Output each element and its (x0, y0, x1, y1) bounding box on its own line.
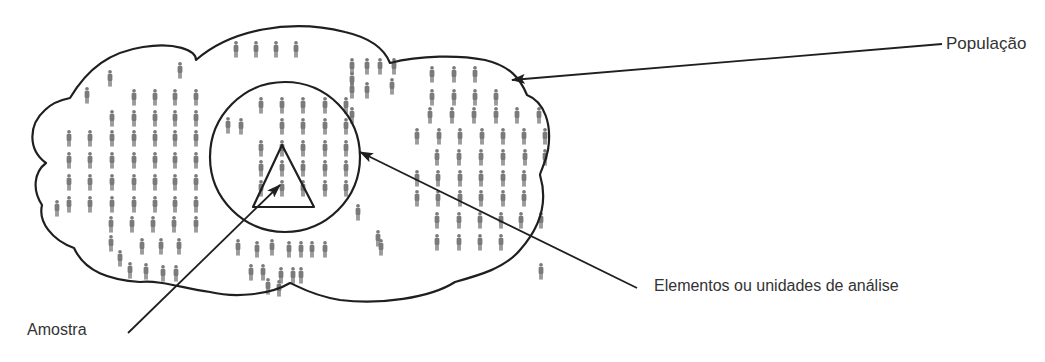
person-icon (88, 174, 93, 191)
person-icon (539, 263, 544, 280)
person-icon (118, 250, 123, 267)
person-icon (435, 149, 440, 166)
person-icon (299, 241, 304, 258)
person-icon (458, 128, 463, 145)
person-icon (457, 234, 462, 251)
person-icon (344, 140, 349, 157)
person-icon (110, 152, 115, 169)
person-icon (479, 149, 484, 166)
person-icon (294, 41, 299, 58)
person-icon (259, 160, 264, 177)
person-icon (519, 212, 524, 229)
person-icon (280, 118, 285, 135)
person-icon (356, 204, 361, 221)
person-icon (173, 130, 178, 147)
person-icon (280, 180, 285, 197)
person-icon (88, 196, 93, 213)
person-icon (110, 196, 115, 213)
person-icon (390, 78, 395, 95)
person-icon (194, 110, 199, 127)
person-icon (458, 170, 463, 187)
person-icon (109, 235, 114, 252)
person-icon (458, 190, 463, 207)
elements-label: Elementos ou unidades de análise (654, 278, 899, 294)
person-icon (428, 107, 433, 124)
person-icon (234, 41, 239, 58)
person-icon (132, 152, 137, 169)
person-icon (88, 130, 93, 147)
person-icon (301, 118, 306, 135)
person-icon (159, 238, 164, 255)
person-icon (452, 89, 457, 106)
person-icon (153, 130, 158, 147)
population-label: População (946, 35, 1026, 52)
population-sample-diagram (0, 0, 1045, 362)
person-icon (365, 58, 370, 75)
person-icon (178, 62, 183, 79)
person-icon (379, 239, 384, 256)
person-icon (344, 118, 349, 135)
person-icon (280, 97, 285, 114)
person-icon (132, 89, 137, 106)
person-icon (261, 264, 266, 281)
person-icon (110, 130, 115, 147)
person-icon (270, 239, 275, 256)
person-icon (523, 149, 528, 166)
elements-circle (210, 82, 360, 232)
person-icon (194, 152, 199, 169)
population-pointer (512, 44, 942, 80)
person-icon (132, 110, 137, 127)
person-icon (323, 140, 328, 157)
person-icon (437, 128, 442, 145)
person-icon (255, 241, 260, 258)
person-icon (110, 174, 115, 191)
person-icon (132, 174, 137, 191)
person-icon (478, 234, 483, 251)
person-icon (153, 174, 158, 191)
person-icon (430, 89, 435, 106)
person-icon (494, 89, 499, 106)
person-icon (236, 239, 241, 256)
person-icon (194, 196, 199, 213)
person-icon (249, 264, 254, 281)
sample-pointer (128, 185, 280, 333)
person-icon (480, 128, 485, 145)
person-icon (194, 130, 199, 147)
person-icon (301, 97, 306, 114)
person-icon (194, 174, 199, 191)
person-icon (88, 152, 93, 169)
person-icon (430, 66, 435, 83)
person-icon (323, 160, 328, 177)
person-icon (435, 212, 440, 229)
person-icon (457, 149, 462, 166)
person-icon (144, 263, 149, 280)
person-icon (310, 241, 315, 258)
person-icon (365, 82, 370, 99)
person-icon (323, 180, 328, 197)
person-icon (153, 89, 158, 106)
person-icon (435, 234, 440, 251)
person-icon (501, 170, 506, 187)
person-icon (259, 140, 264, 157)
person-icon (109, 216, 114, 233)
person-icon (259, 97, 264, 114)
person-icon (67, 174, 72, 191)
person-icon (55, 200, 60, 217)
person-icon (274, 41, 279, 58)
person-icon (153, 110, 158, 127)
person-icon (173, 196, 178, 213)
person-icon (161, 265, 166, 282)
person-icon (299, 267, 304, 284)
person-icon (344, 180, 349, 197)
person-icon (194, 89, 199, 106)
person-icon (153, 152, 158, 169)
person-icon (323, 118, 328, 135)
person-icon (378, 58, 383, 75)
person-icon (478, 212, 483, 229)
person-icon (301, 140, 306, 157)
person-icon (450, 107, 455, 124)
person-icon (291, 267, 296, 284)
person-icon (415, 190, 420, 207)
person-icon (522, 128, 527, 145)
person-icon (501, 128, 506, 145)
